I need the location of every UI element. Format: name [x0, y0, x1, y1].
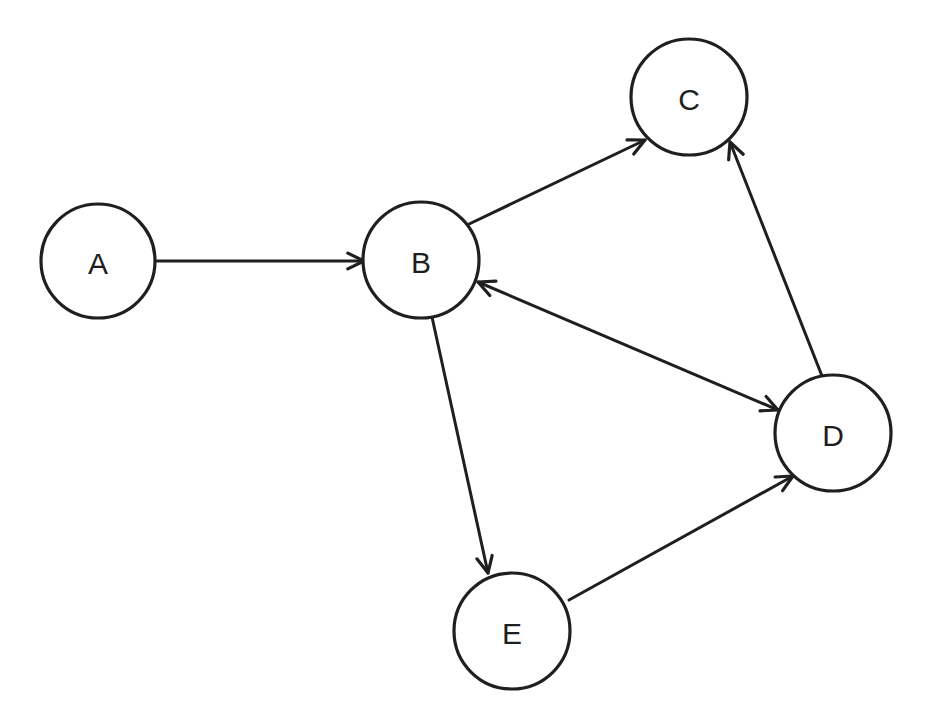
edge-d-c[interactable]	[729, 142, 822, 376]
nodes-layer: A B C D E	[41, 39, 891, 689]
edge-b-e[interactable]	[432, 317, 492, 573]
node-d-label: D	[822, 419, 844, 452]
node-c[interactable]: C	[631, 39, 747, 155]
graph-canvas: A B C D E	[0, 0, 934, 728]
edge-b-e-line	[432, 317, 488, 573]
node-d[interactable]: D	[775, 375, 891, 491]
edge-b-c-line	[467, 140, 645, 225]
edge-e-d[interactable]	[569, 476, 793, 600]
node-e[interactable]: E	[454, 573, 570, 689]
node-a[interactable]: A	[41, 204, 155, 318]
node-c-label: C	[678, 83, 700, 116]
edges-layer	[155, 140, 822, 600]
edge-b-d-line	[478, 282, 778, 410]
edge-a-b[interactable]	[155, 253, 364, 269]
edge-e-d-line	[569, 476, 793, 600]
edge-b-d[interactable]	[478, 281, 778, 411]
node-b-label: B	[411, 246, 431, 279]
node-e-label: E	[502, 617, 522, 650]
edge-b-c[interactable]	[467, 140, 645, 225]
node-b[interactable]: B	[363, 202, 479, 318]
node-a-label: A	[88, 247, 108, 280]
edge-d-c-line	[730, 142, 822, 376]
